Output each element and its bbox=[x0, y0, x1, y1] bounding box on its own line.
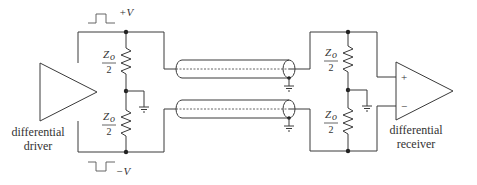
right-lower-sub: o bbox=[332, 111, 337, 122]
left-upper-z: Z bbox=[103, 48, 110, 60]
driver-label-line2: driver bbox=[24, 139, 53, 153]
positive-voltage-label: +V bbox=[119, 6, 134, 18]
left-upper-resistor bbox=[121, 48, 131, 74]
positive-pulse-icon bbox=[88, 14, 115, 23]
left-lower-z: Z bbox=[103, 110, 110, 122]
receiver-label-line2: receiver bbox=[397, 137, 436, 151]
left-upper-den: 2 bbox=[107, 64, 112, 75]
right-upper-resistor bbox=[343, 46, 353, 72]
lower-coax-cable bbox=[176, 100, 310, 131]
left-upper-sub: o bbox=[110, 51, 115, 62]
differential-driver-symbol bbox=[40, 63, 97, 121]
upper-coax-cable bbox=[176, 60, 310, 91]
left-bottom-node bbox=[124, 150, 128, 154]
lower-shield-ground-icon bbox=[284, 118, 294, 131]
receiver-label-line1: differential bbox=[389, 123, 443, 137]
left-lower-den: 2 bbox=[107, 126, 112, 137]
right-upper-z: Z bbox=[325, 46, 332, 58]
right-ground-icon bbox=[348, 90, 372, 111]
negative-pulse-icon bbox=[88, 162, 115, 171]
upper-shield-ground-icon bbox=[284, 78, 294, 91]
right-lower-resistor bbox=[343, 108, 353, 134]
driver-label-line1: differential bbox=[11, 125, 65, 139]
left-ground-icon bbox=[126, 91, 149, 112]
right-top-wire bbox=[310, 32, 396, 77]
left-lower-resistor bbox=[121, 110, 131, 136]
right-bottom-wire bbox=[310, 106, 396, 151]
right-lower-z: Z bbox=[325, 108, 332, 120]
left-lower-sub: o bbox=[110, 113, 115, 124]
right-upper-den: 2 bbox=[329, 62, 334, 73]
right-lower-den: 2 bbox=[329, 124, 334, 135]
left-top-wire bbox=[78, 32, 176, 69]
right-bottom-node bbox=[346, 149, 350, 153]
right-top-node bbox=[346, 30, 350, 34]
circuit-diagram: differential driver +V −V Z o 2 Z o 2 bbox=[0, 0, 477, 185]
receiver-minus-input: − bbox=[401, 100, 407, 112]
right-upper-sub: o bbox=[332, 49, 337, 60]
negative-voltage-label: −V bbox=[116, 165, 131, 177]
left-top-node bbox=[124, 30, 128, 34]
receiver-plus-input: + bbox=[401, 71, 407, 83]
